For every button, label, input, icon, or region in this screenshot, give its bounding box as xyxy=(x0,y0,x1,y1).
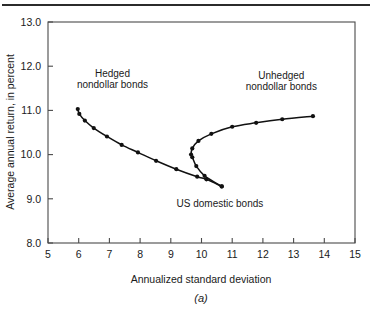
x-tick-label-14: 14 xyxy=(318,248,330,260)
data-point xyxy=(189,153,193,157)
x-tick-label-5: 5 xyxy=(45,248,51,260)
data-point xyxy=(254,121,258,125)
annotation-unhedged-nondollar-bonds: nondollar bonds xyxy=(246,81,317,92)
data-point xyxy=(76,107,80,111)
annotation-us-domestic-bonds: US domestic bonds xyxy=(177,198,264,209)
annotation-unhedged-nondollar-bonds: Unhedged xyxy=(258,70,304,81)
y-tick-label-9.0: 9.0 xyxy=(26,193,41,205)
x-tick-label-10: 10 xyxy=(196,248,208,260)
plot-frame xyxy=(48,22,355,243)
figure-caption: (a) xyxy=(194,292,208,304)
series-line-0 xyxy=(78,109,222,186)
data-point xyxy=(202,174,206,178)
data-point xyxy=(174,167,178,171)
annotation-hedged-nondollar-bonds: Hedged xyxy=(95,68,130,79)
series-line-1 xyxy=(191,116,313,186)
data-point xyxy=(154,159,158,163)
y-axis-title: Average annual return, in percent xyxy=(4,54,16,210)
x-tick-label-11: 11 xyxy=(227,248,238,260)
efficient-frontier-chart: 8.09.010.011.012.013.0 56789101112131415… xyxy=(0,0,372,311)
data-point xyxy=(83,118,87,122)
y-tick-label-8.0: 8.0 xyxy=(26,237,41,249)
annotation-hedged-nondollar-bonds: nondollar bonds xyxy=(77,79,148,90)
x-tick-label-7: 7 xyxy=(106,248,112,260)
x-axis-tick-labels: 56789101112131415 xyxy=(45,248,361,260)
x-axis-ticks xyxy=(48,238,355,243)
x-axis-title: Annualized standard deviation xyxy=(131,273,272,285)
data-point xyxy=(311,114,315,118)
y-axis-tick-labels: 8.09.010.011.012.013.0 xyxy=(21,16,42,249)
data-point xyxy=(220,184,224,188)
data-point xyxy=(120,143,124,147)
data-point xyxy=(209,132,213,136)
data-point xyxy=(105,134,109,138)
figure-panel: 8.09.010.011.012.013.0 56789101112131415… xyxy=(0,0,372,311)
data-point xyxy=(196,139,200,143)
x-tick-label-15: 15 xyxy=(349,248,361,260)
chart-annotations: Hedgednondollar bondsUnhedgednondollar b… xyxy=(77,68,317,209)
y-axis-ticks xyxy=(48,22,53,243)
y-tick-label-10.0: 10.0 xyxy=(21,148,42,160)
data-point xyxy=(280,117,284,121)
y-tick-label-11.0: 11.0 xyxy=(21,104,41,116)
data-point xyxy=(136,150,140,154)
data-point xyxy=(77,112,81,116)
x-tick-label-13: 13 xyxy=(288,248,300,260)
x-tick-label-8: 8 xyxy=(137,248,143,260)
x-tick-label-6: 6 xyxy=(76,248,82,260)
y-tick-label-12.0: 12.0 xyxy=(21,60,42,72)
y-tick-label-13.0: 13.0 xyxy=(21,16,42,28)
data-point xyxy=(195,175,199,179)
x-tick-label-9: 9 xyxy=(168,248,174,260)
data-point xyxy=(230,125,234,129)
data-point xyxy=(92,126,96,130)
x-tick-label-12: 12 xyxy=(257,248,269,260)
data-point xyxy=(190,146,194,150)
data-point xyxy=(194,164,198,168)
data-series-group xyxy=(76,107,315,189)
